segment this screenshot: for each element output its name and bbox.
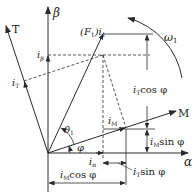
current-vector (48, 34, 103, 153)
iT-cos-label: iTcos φ (133, 84, 167, 96)
iM-cos-label: iMcos φ (60, 169, 96, 181)
i-M-label: iM (108, 115, 117, 127)
i-beta-label: iβ (37, 49, 44, 63)
rotation-arc (128, 18, 182, 78)
iT-sin-label: iTsin φ (133, 166, 165, 178)
vector-label: (F1)i1 (80, 26, 106, 38)
iM-sin-label: iMsin φ (150, 136, 184, 148)
theta-label: θ1 (64, 124, 74, 136)
proj-to-M (103, 55, 126, 128)
m-axis-label: M (178, 107, 189, 120)
beta-label: β (52, 6, 60, 20)
phi-label: φ (77, 142, 84, 153)
i-alpha-label: iα (89, 156, 96, 168)
phi-arc (69, 146, 70, 153)
t-axis-label: T (12, 23, 20, 36)
iT-sin-leader (118, 163, 132, 170)
omega-label: ω1 (164, 31, 177, 45)
proj-to-T (24, 55, 103, 81)
alpha-label: α (184, 155, 192, 169)
t-axis (6, 26, 48, 153)
i-T-label: iT (12, 77, 19, 89)
phasor-diagram: β α T M ω1 (F1)i1 iβ iT iM iα θ1 φ iTcos… (0, 0, 196, 193)
